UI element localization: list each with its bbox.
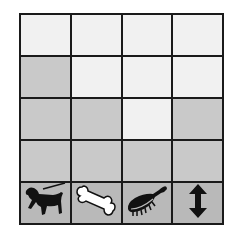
walk-dog-icon (23, 183, 67, 223)
brush-icon (125, 183, 169, 223)
bone-icon (74, 183, 118, 223)
chart-cell (173, 99, 222, 139)
chart-cell (21, 99, 70, 139)
chart-cell (72, 15, 121, 55)
chart-cell (21, 141, 70, 181)
chart-cell (123, 99, 172, 139)
chart-cell (72, 99, 121, 139)
chart-cell (21, 15, 70, 55)
chart-cell (72, 141, 121, 181)
picture-bar-chart (19, 13, 224, 225)
chart-cell (21, 57, 70, 97)
category-label-cell (72, 183, 121, 223)
chart-cell (123, 141, 172, 181)
category-label-cell (21, 183, 70, 223)
category-label-cell (173, 183, 222, 223)
chart-cell (173, 57, 222, 97)
chart-cell (72, 57, 121, 97)
chart-cell (123, 15, 172, 55)
up-down-arrow-icon (176, 183, 220, 223)
chart-cell (123, 57, 172, 97)
category-label-cell (123, 183, 172, 223)
chart-cell (173, 141, 222, 181)
chart-cell (173, 15, 222, 55)
